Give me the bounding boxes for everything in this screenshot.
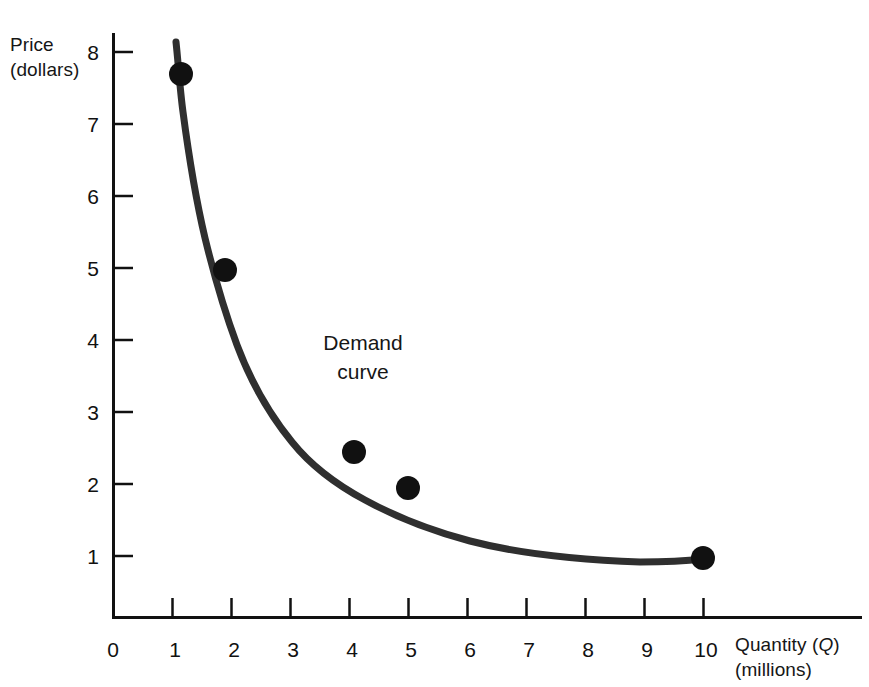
data-point-4 xyxy=(396,476,420,500)
demand-curve-figure: Price(dollars) Quantity (Q)(millions) 8 … xyxy=(0,0,869,687)
x-tick-marks xyxy=(173,598,704,616)
demand-curve-path xyxy=(176,42,703,562)
data-point-3 xyxy=(342,440,366,464)
y-tick-marks xyxy=(115,52,133,556)
data-point-5 xyxy=(691,546,715,570)
data-point-2 xyxy=(213,258,237,282)
data-point-markers xyxy=(169,62,715,570)
data-point-1 xyxy=(169,62,193,86)
plot-area xyxy=(0,0,869,687)
